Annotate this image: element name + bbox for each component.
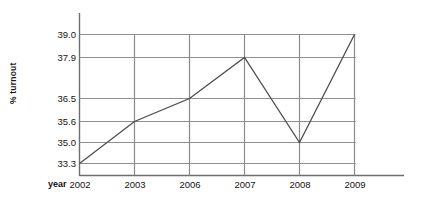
- x-tick-label: 2006: [179, 179, 200, 190]
- x-axis-title: year: [48, 179, 67, 189]
- x-tick-label: 2007: [234, 179, 255, 190]
- line-chart-figure: % turnout 39.0 37.9 36.5 35.6 35.0 33.3: [0, 0, 429, 211]
- x-tick-label: 2008: [289, 179, 310, 190]
- x-tick-label: 2003: [124, 179, 145, 190]
- x-tick-label: 2009: [344, 179, 365, 190]
- horizontal-gridlines: [80, 35, 356, 164]
- x-tick-label: 2002: [69, 179, 90, 190]
- vertical-gridlines: [135, 35, 355, 176]
